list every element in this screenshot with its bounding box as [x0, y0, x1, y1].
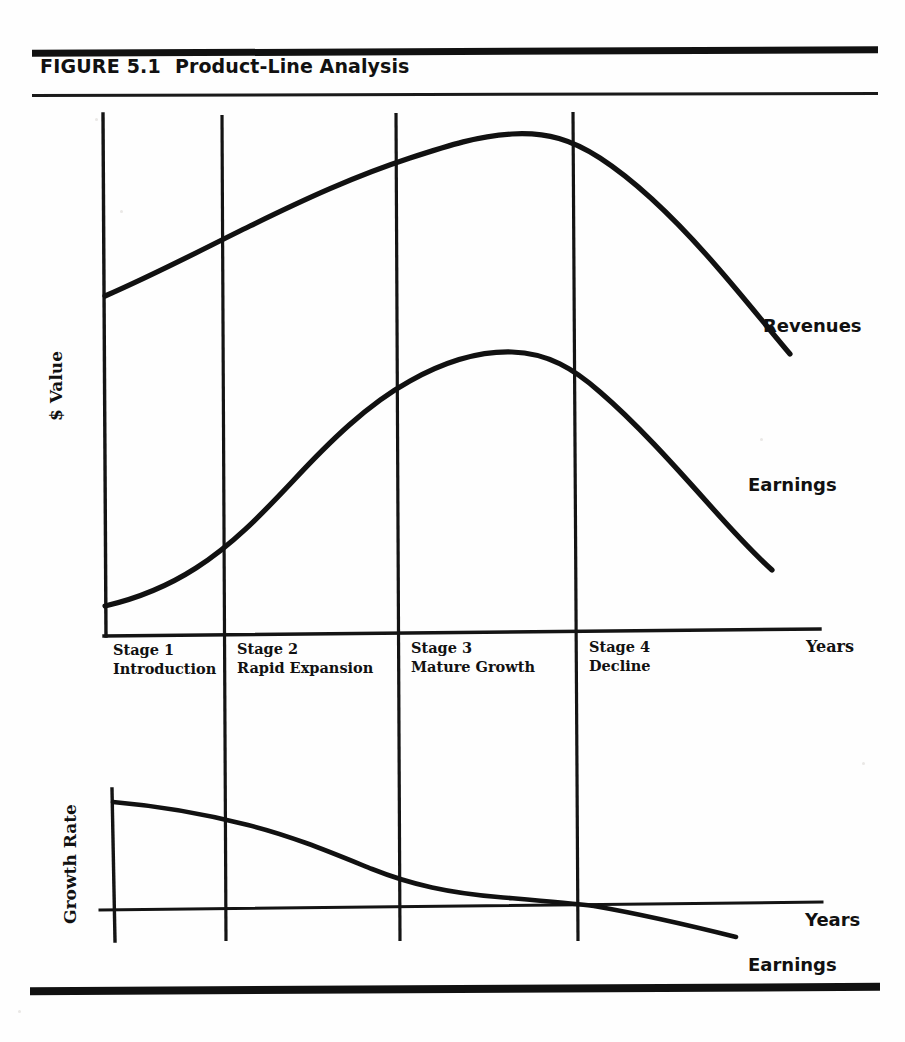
lower-y-axis-label: Growth Rate	[60, 804, 80, 924]
stage-2-description: Rapid Expansion	[237, 659, 374, 676]
figure-page: FIGURE 5.1 Product-Line Analysis	[0, 0, 905, 1042]
figure-title: Product-Line Analysis	[175, 55, 410, 77]
stage-3-name: Stage 3	[411, 639, 472, 656]
figure-number: FIGURE 5.1	[40, 55, 161, 77]
lower-x-axis-label: Years	[804, 909, 860, 930]
lower-x-axis	[100, 902, 822, 910]
product-line-analysis-chart: Revenues Earnings $ Value Years Stage 1 …	[0, 96, 905, 986]
growth-rate-curve	[113, 802, 736, 937]
upper-x-axis	[104, 629, 820, 636]
lower-panel: Years Earnings Growth Rate	[60, 789, 860, 975]
earnings-curve	[105, 352, 772, 606]
stage-1-description: Introduction	[113, 660, 217, 677]
stage-1-name: Stage 1	[113, 641, 174, 658]
lower-y-axis	[112, 789, 115, 941]
upper-y-axis-label: $ Value	[46, 351, 66, 421]
upper-x-axis-label: Years	[805, 637, 854, 656]
stage-2-name: Stage 2	[237, 640, 298, 657]
upper-panel: Revenues Earnings $ Value Years	[46, 114, 862, 656]
stage-3-description: Mature Growth	[411, 658, 535, 675]
stage-4-description: Decline	[589, 657, 650, 674]
stage-4-name: Stage 4	[589, 638, 650, 655]
figure-caption: FIGURE 5.1 Product-Line Analysis	[40, 55, 410, 77]
stage-divider-2	[396, 113, 400, 941]
scan-speck	[18, 1010, 21, 1013]
revenues-curve	[105, 134, 790, 354]
stage-labels: Stage 1 Introduction Stage 2 Rapid Expan…	[113, 638, 650, 677]
stage-divider-3	[573, 112, 578, 941]
stage-divider-group	[222, 112, 578, 941]
upper-y-axis	[103, 114, 106, 636]
earnings-label-upper: Earnings	[748, 474, 837, 495]
revenues-label: Revenues	[763, 315, 862, 336]
earnings-label-lower: Earnings	[748, 954, 837, 975]
